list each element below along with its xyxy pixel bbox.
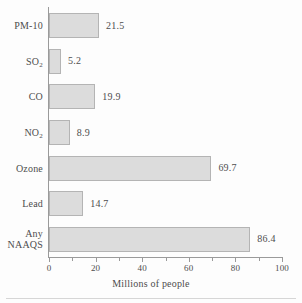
category-label: Ozone xyxy=(16,163,43,174)
page-rule-divider xyxy=(6,298,296,299)
x-tick-major xyxy=(282,258,283,262)
bar-row: 8.9 xyxy=(49,120,282,145)
bar xyxy=(49,84,95,109)
bar-row: 69.7 xyxy=(49,156,282,181)
x-tick-major xyxy=(142,258,143,262)
bar-row: 5.2 xyxy=(49,49,282,74)
bar-value-label: 69.7 xyxy=(218,163,236,173)
category-label: SO2 xyxy=(26,56,43,69)
plot-area: 21.55.219.98.969.714.786.4 xyxy=(49,8,282,257)
x-tick-label: 60 xyxy=(184,263,193,273)
x-tick-label: 80 xyxy=(231,263,240,273)
category-label: PM-10 xyxy=(14,20,43,31)
bar xyxy=(49,191,83,216)
category-label: CO xyxy=(29,91,43,102)
bar-row: 14.7 xyxy=(49,191,282,216)
x-tick-label: 0 xyxy=(47,263,52,273)
x-tick-label: 20 xyxy=(91,263,100,273)
bar xyxy=(49,156,211,181)
bar-row: 86.4 xyxy=(49,227,282,252)
x-tick-minor xyxy=(212,258,213,261)
bar-value-label: 21.5 xyxy=(106,21,124,31)
category-label: Lead xyxy=(22,198,43,209)
bar-row: 19.9 xyxy=(49,84,282,109)
category-label: NO2 xyxy=(24,127,43,140)
bar-value-label: 14.7 xyxy=(90,199,108,209)
bar-value-label: 8.9 xyxy=(77,128,90,138)
bar xyxy=(49,120,70,145)
x-tick-label: 40 xyxy=(137,263,146,273)
x-tick-minor xyxy=(119,258,120,261)
bar-row: 21.5 xyxy=(49,13,282,38)
bar xyxy=(49,13,99,38)
x-tick-minor xyxy=(72,258,73,261)
x-tick-label: 100 xyxy=(275,263,289,273)
x-tick-minor xyxy=(166,258,167,261)
bar-value-label: 86.4 xyxy=(257,234,275,244)
bar-value-label: 5.2 xyxy=(68,56,81,66)
bar xyxy=(49,49,61,74)
x-axis-title: Millions of people xyxy=(0,278,302,289)
x-tick-major xyxy=(96,258,97,262)
x-tick-major xyxy=(189,258,190,262)
x-tick-minor xyxy=(259,258,260,261)
bar-chart: 21.55.219.98.969.714.786.4 PM-10SO2CONO2… xyxy=(0,0,302,303)
x-tick-major xyxy=(235,258,236,262)
bar-value-label: 19.9 xyxy=(102,92,120,102)
bar xyxy=(49,227,250,252)
x-tick-major xyxy=(49,258,50,262)
category-label: AnyNAAQS xyxy=(8,228,43,250)
